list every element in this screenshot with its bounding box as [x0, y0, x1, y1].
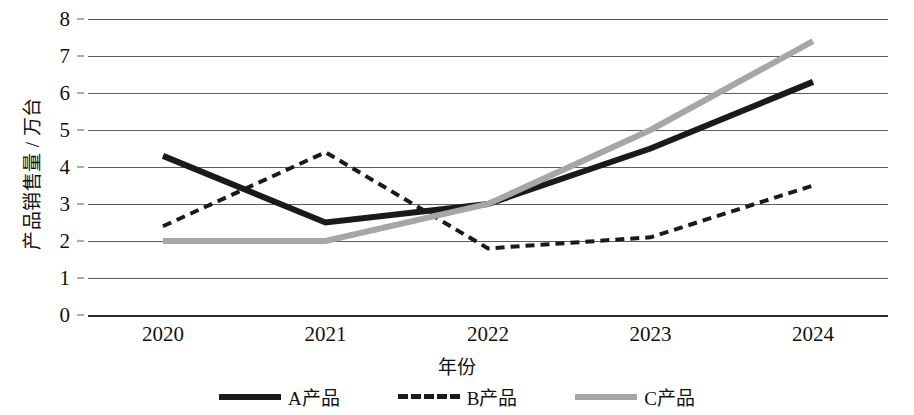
- y-tick-label-7: 7: [10, 44, 70, 69]
- x-axis-title: 年份: [0, 352, 914, 379]
- legend-label-B产品: B产品: [467, 383, 518, 410]
- y-tick-mark-0: [77, 315, 84, 316]
- series-line-B产品: [163, 152, 813, 248]
- legend-item-C产品[interactable]: C产品: [575, 383, 695, 410]
- y-tick-label-4: 4: [10, 155, 70, 180]
- y-tick-mark-1: [77, 278, 84, 279]
- y-tick-mark-7: [77, 56, 84, 57]
- legend-swatch-icon-B产品: [398, 394, 460, 399]
- y-axis-tick-labels: 012345678: [0, 19, 84, 315]
- x-tick-label-2020: 2020: [142, 322, 184, 347]
- x-tick-label-2023: 2023: [630, 322, 672, 347]
- legend-label-A产品: A产品: [288, 383, 340, 410]
- y-tick-mark-5: [77, 130, 84, 131]
- y-tick-label-8: 8: [10, 7, 70, 32]
- y-tick-mark-4: [77, 167, 84, 168]
- y-tick-label-6: 6: [10, 81, 70, 106]
- legend-label-C产品: C产品: [644, 383, 695, 410]
- legend-swatch-icon-C产品: [575, 394, 637, 400]
- plot-area: [88, 19, 888, 315]
- x-tick-label-2024: 2024: [792, 322, 834, 347]
- legend-swatch-icon-A产品: [219, 394, 281, 400]
- x-tick-label-2021: 2021: [305, 322, 347, 347]
- series-line-C产品: [163, 41, 813, 241]
- line-chart: 产品销售量 / 万台 012345678 2020202120222023202…: [0, 0, 914, 415]
- y-tick-label-5: 5: [10, 118, 70, 143]
- y-tick-label-3: 3: [10, 192, 70, 217]
- y-tick-label-1: 1: [10, 266, 70, 291]
- x-axis-tick-labels: 20202021202220232024: [88, 322, 888, 354]
- gridline-0: [88, 315, 888, 317]
- series-layer: [88, 19, 888, 315]
- y-tick-mark-6: [77, 93, 84, 94]
- y-tick-label-2: 2: [10, 229, 70, 254]
- legend-item-B产品[interactable]: B产品: [398, 383, 518, 410]
- y-tick-mark-8: [77, 19, 84, 20]
- y-tick-label-0: 0: [10, 303, 70, 328]
- legend-item-A产品[interactable]: A产品: [219, 383, 340, 410]
- y-tick-mark-3: [77, 204, 84, 205]
- chart-legend: A产品B产品C产品: [0, 383, 914, 410]
- y-tick-mark-2: [77, 241, 84, 242]
- x-tick-label-2022: 2022: [467, 322, 509, 347]
